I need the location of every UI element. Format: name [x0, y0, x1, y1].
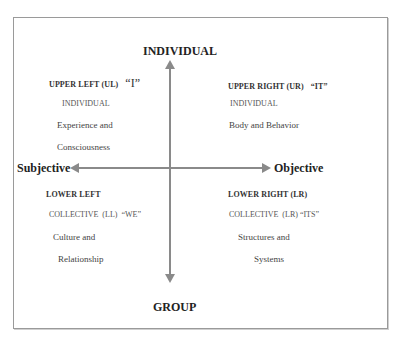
axis-label-left: Subjective: [17, 161, 70, 176]
axis-label-bottom: GROUP: [153, 300, 196, 315]
quadrant-lower-right-heading: LOWER RIGHT (LR): [228, 190, 307, 199]
quadrant-quote: “IT”: [311, 82, 328, 91]
quadrant-heading-text: UPPER RIGHT (UR): [228, 82, 304, 91]
axis-label-right: Objective: [274, 161, 323, 176]
quadrant-heading-text: UPPER LEFT (UL): [49, 80, 118, 89]
quadrant-quote: “I”: [125, 76, 140, 90]
quadrant-lower-left-type: COLLECTIVE (LL) “WE”: [49, 210, 141, 219]
quadrant-upper-right-heading: UPPER RIGHT (UR) “IT”: [228, 75, 328, 93]
quadrant-upper-left-type: INDIVIDUAL: [62, 99, 110, 108]
quadrant-lower-left-line1: Culture and: [53, 232, 95, 242]
quadrant-upper-right-type: INDIVIDUAL: [230, 99, 278, 108]
vertical-arrow-icon: [165, 60, 175, 283]
quadrant-lower-right-line1: Structures and: [238, 232, 290, 242]
quadrant-upper-right-line1: Body and Behavior: [229, 120, 299, 130]
quadrant-lower-right-type: COLLECTIVE (LR) “ITS”: [229, 210, 319, 219]
axis-label-top: INDIVIDUAL: [143, 44, 217, 59]
quadrant-lower-left-heading: LOWER LEFT: [46, 190, 101, 199]
quadrant-lower-left-line2: Relationship: [58, 254, 104, 264]
quadrant-upper-left-heading: UPPER LEFT (UL) “I”: [49, 73, 140, 91]
quadrant-upper-left-line2: Consciousness: [57, 142, 110, 152]
quadrant-lower-right-line2: Systems: [254, 254, 284, 264]
quadrant-upper-left-line1: Experience and: [57, 120, 113, 130]
